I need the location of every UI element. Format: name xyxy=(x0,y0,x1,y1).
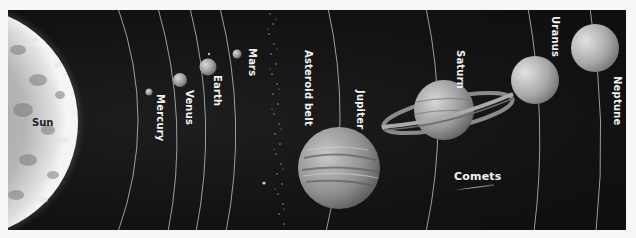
label-mars: Mars xyxy=(247,48,258,76)
asteroid-belt xyxy=(262,13,284,225)
uranus xyxy=(511,56,559,104)
label-earth: Earth xyxy=(212,75,223,106)
venus xyxy=(173,73,187,87)
jupiter xyxy=(298,127,380,209)
label-venus: Venus xyxy=(184,90,195,125)
solar-system-diagram: Sun Mercury Venus Earth Mars Asteroid be… xyxy=(8,10,626,230)
label-mercury: Mercury xyxy=(155,94,166,142)
moon xyxy=(208,53,210,55)
label-saturn: Saturn xyxy=(455,50,466,89)
saturn xyxy=(380,80,515,141)
diagram-graphics xyxy=(8,10,626,230)
label-comets: Comets xyxy=(454,170,502,183)
neptune xyxy=(571,24,619,72)
label-sun: Sun xyxy=(32,117,53,128)
mercury xyxy=(146,89,153,96)
mars xyxy=(233,50,242,59)
label-neptune: Neptune xyxy=(612,76,623,126)
comet xyxy=(455,184,494,190)
label-jupiter: Jupiter xyxy=(355,90,366,129)
earth xyxy=(200,59,217,76)
label-uranus: Uranus xyxy=(550,16,561,57)
label-asteroid-belt: Asteroid belt xyxy=(303,50,314,126)
